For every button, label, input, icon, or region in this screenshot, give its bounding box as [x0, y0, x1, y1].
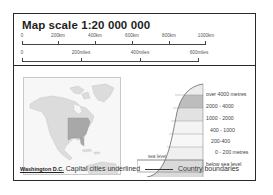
km-tick-mark [132, 41, 133, 44]
km-tick-mark [58, 41, 59, 44]
miles-tick-mark [140, 58, 141, 61]
km-scale-line [22, 44, 206, 45]
scale-bar-km: 0 200km 400km 600km 800km 1000km [22, 33, 212, 45]
km-tick-label: 400km [88, 33, 102, 38]
elevation-band-label: 1000 - 2000 [206, 115, 234, 121]
miles-tick-label: 400miles [131, 50, 149, 55]
capital-city-sample: Washington D.C. [20, 166, 64, 172]
km-tick-label: 1000km [198, 33, 214, 38]
miles-tick-label: 200miles [72, 50, 90, 55]
scale-bar-miles: 0 200miles 400miles 600miles [22, 50, 212, 62]
miles-tick-mark [22, 58, 23, 61]
elevation-band-label: 0 - 200 metres [215, 149, 248, 155]
km-tick-mark [22, 41, 23, 44]
miles-tick-mark [198, 58, 199, 61]
elevation-band-label: 200-400 [211, 138, 230, 144]
km-tick-label: 800km [162, 33, 176, 38]
map-scale-title: Map scale 1:20 000 000 [22, 19, 150, 31]
footer-key: Washington D.C. Capital cities underline… [20, 165, 239, 172]
miles-tick-label: 0 [21, 50, 24, 55]
km-tick-mark [169, 41, 170, 44]
map-key-panel: Map scale 1:20 000 000 0 200km 400km 600… [13, 13, 256, 181]
elevation-band-label: over 4000 metres [206, 91, 246, 97]
sea-level-label: sea level [148, 154, 166, 159]
header-divider [14, 65, 255, 66]
elevation-band-label: 2000 - 4000 [206, 103, 234, 109]
miles-tick-label: 600miles [190, 50, 208, 55]
miles-tick-mark [81, 58, 82, 61]
locator-map [23, 77, 121, 175]
miles-scale-line [22, 61, 199, 62]
north-america-map-icon [24, 78, 121, 175]
km-tick-label: 0 [21, 33, 24, 38]
elevation-profile-icon [137, 82, 207, 177]
km-tick-label: 200km [51, 33, 65, 38]
elevation-legend: sea level over 4000 metres 2000 - 4000 1… [137, 82, 252, 177]
country-boundaries-text: Country boundaries [178, 165, 239, 172]
km-tick-label: 600km [125, 33, 139, 38]
capital-cities-text: Capital cities underlined [66, 165, 140, 172]
km-tick-mark [205, 41, 206, 44]
km-tick-mark [95, 41, 96, 44]
boundary-line-icon [145, 169, 173, 170]
elevation-band-label: 400 - 1000 [210, 127, 235, 133]
